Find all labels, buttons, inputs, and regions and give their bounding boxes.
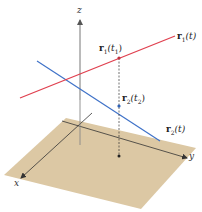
label-r2-t: r2(t) <box>166 125 185 136</box>
point-r2-t2 <box>117 104 120 107</box>
x-axis-label: x <box>14 179 19 188</box>
projection-point <box>118 155 121 158</box>
point-r1-t1 <box>117 56 120 59</box>
y-axis-label: y <box>189 152 194 161</box>
z-axis-label: z <box>77 6 82 15</box>
label-r1-t: r1(t) <box>177 32 196 43</box>
skew-lines-diagram <box>0 0 202 212</box>
label-r1-t1: r1(t1) <box>99 44 122 55</box>
line-r1 <box>20 36 175 98</box>
label-r2-t2: r2(t2) <box>122 94 145 105</box>
